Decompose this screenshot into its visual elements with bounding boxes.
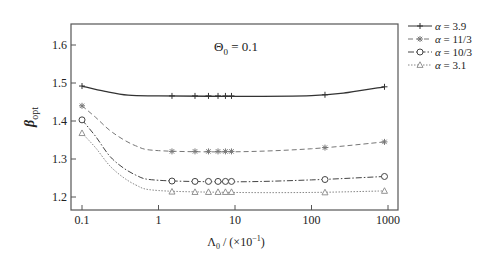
marker-plus-icon: [322, 92, 328, 98]
legend-item: α = 11/3: [408, 33, 472, 45]
legend-item: α = 10/3: [408, 46, 473, 58]
x-axis: 0.11101001000: [75, 205, 401, 227]
marker-asterisk-icon: [79, 103, 85, 109]
y-tick-label: 1.6: [52, 38, 67, 52]
marker-circle-icon: [215, 178, 221, 184]
marker-asterisk-icon: [417, 36, 423, 42]
y-tick-label: 1.4: [52, 114, 67, 128]
marker-circle-icon: [228, 178, 234, 184]
marker-triangle-icon: [215, 189, 221, 195]
marker-circle-icon: [381, 173, 387, 179]
x-tick-label: 100: [303, 213, 321, 227]
x-tick-label: 1000: [376, 213, 400, 227]
marker-triangle-icon: [228, 189, 234, 195]
legend-label: α = 3.1: [435, 59, 466, 71]
chart: 0.11101001000 1.21.31.41.51.6 α = 3.9α =…: [0, 0, 484, 256]
y-tick-label: 1.5: [52, 76, 67, 90]
marker-triangle-icon: [222, 189, 228, 195]
legend-item: α = 3.9: [408, 20, 467, 32]
x-tick-label: 10: [229, 213, 241, 227]
marker-circle-icon: [222, 178, 228, 184]
x-tick-label: 0.1: [75, 213, 90, 227]
y-axis: 1.21.31.41.51.6: [52, 38, 76, 204]
marker-plus-icon: [228, 93, 234, 99]
marker-asterisk-icon: [169, 148, 175, 154]
y-tick-label: 1.2: [52, 190, 67, 204]
marker-plus-icon: [222, 93, 228, 99]
x-tick-label: 1: [156, 213, 162, 227]
marker-asterisk-icon: [228, 148, 234, 154]
series-line: [82, 106, 384, 152]
marker-asterisk-icon: [192, 148, 198, 154]
marker-asterisk-icon: [381, 139, 387, 145]
marker-circle-icon: [79, 117, 85, 123]
marker-asterisk-icon: [205, 148, 211, 154]
legend-label: α = 10/3: [435, 46, 473, 58]
marker-circle-icon: [205, 178, 211, 184]
marker-circle-icon: [192, 178, 198, 184]
marker-plus-icon: [215, 93, 221, 99]
series-3: [79, 130, 387, 195]
marker-triangle-icon: [381, 188, 387, 194]
marker-plus-icon: [205, 93, 211, 99]
marker-circle-icon: [322, 177, 328, 183]
marker-plus-icon: [192, 93, 198, 99]
marker-asterisk-icon: [215, 148, 221, 154]
x-axis-label: Λ0 / (×10−1): [207, 234, 264, 251]
series-1: [79, 103, 387, 155]
marker-asterisk-icon: [322, 145, 328, 151]
marker-plus-icon: [417, 23, 423, 29]
series-0: [79, 83, 387, 99]
marker-plus-icon: [381, 84, 387, 90]
y-tick-label: 1.3: [52, 152, 67, 166]
legend-item: α = 3.1: [408, 59, 466, 71]
annotation-theta: Θ0 = 0.1: [214, 39, 258, 57]
legend: α = 3.9α = 11/3α = 10/3α = 3.1: [408, 20, 473, 71]
marker-circle-icon: [169, 178, 175, 184]
y-axis-label: βopt: [22, 107, 40, 128]
legend-label: α = 3.9: [435, 20, 467, 32]
marker-triangle-icon: [79, 130, 85, 136]
legend-label: α = 11/3: [435, 33, 472, 45]
marker-circle-icon: [417, 49, 423, 55]
series-line: [82, 120, 384, 182]
marker-plus-icon: [79, 83, 85, 89]
marker-asterisk-icon: [222, 148, 228, 154]
series-line: [82, 86, 384, 96]
marker-plus-icon: [169, 93, 175, 99]
series-2: [79, 117, 387, 185]
